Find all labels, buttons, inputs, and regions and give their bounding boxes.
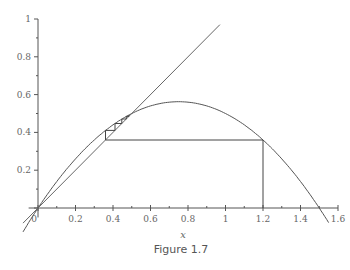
axes: 00.20.40.60.811.21.41.60.20.40.60.81	[17, 14, 346, 224]
x-tick-label: 1	[223, 214, 229, 224]
figure-caption: Figure 1.7	[0, 243, 350, 256]
x-tick-label: 0.6	[143, 214, 158, 224]
map-curve	[23, 102, 329, 232]
y-tick-label: 1	[25, 14, 31, 24]
plot-area	[23, 25, 329, 232]
x-tick-label: 1.4	[293, 214, 308, 224]
x-tick-label: 0.4	[106, 214, 121, 224]
y-tick-label: 0.6	[17, 90, 32, 100]
y-tick-label: 0.4	[17, 127, 32, 137]
cobweb-chart: 00.20.40.60.811.21.41.60.20.40.60.81 x	[0, 0, 350, 250]
x-tick-label: 1.6	[331, 214, 346, 224]
cobweb-path	[106, 115, 264, 208]
x-tick-label: 0.2	[68, 214, 82, 224]
x-axis-label: x	[180, 229, 186, 240]
x-tick-label: 0.8	[181, 214, 196, 224]
x-tick-label: 1.2	[256, 214, 270, 224]
x-tick-label: 0	[31, 214, 37, 224]
y-tick-label: 0.8	[17, 52, 32, 62]
y-tick-label: 0.2	[17, 165, 31, 175]
